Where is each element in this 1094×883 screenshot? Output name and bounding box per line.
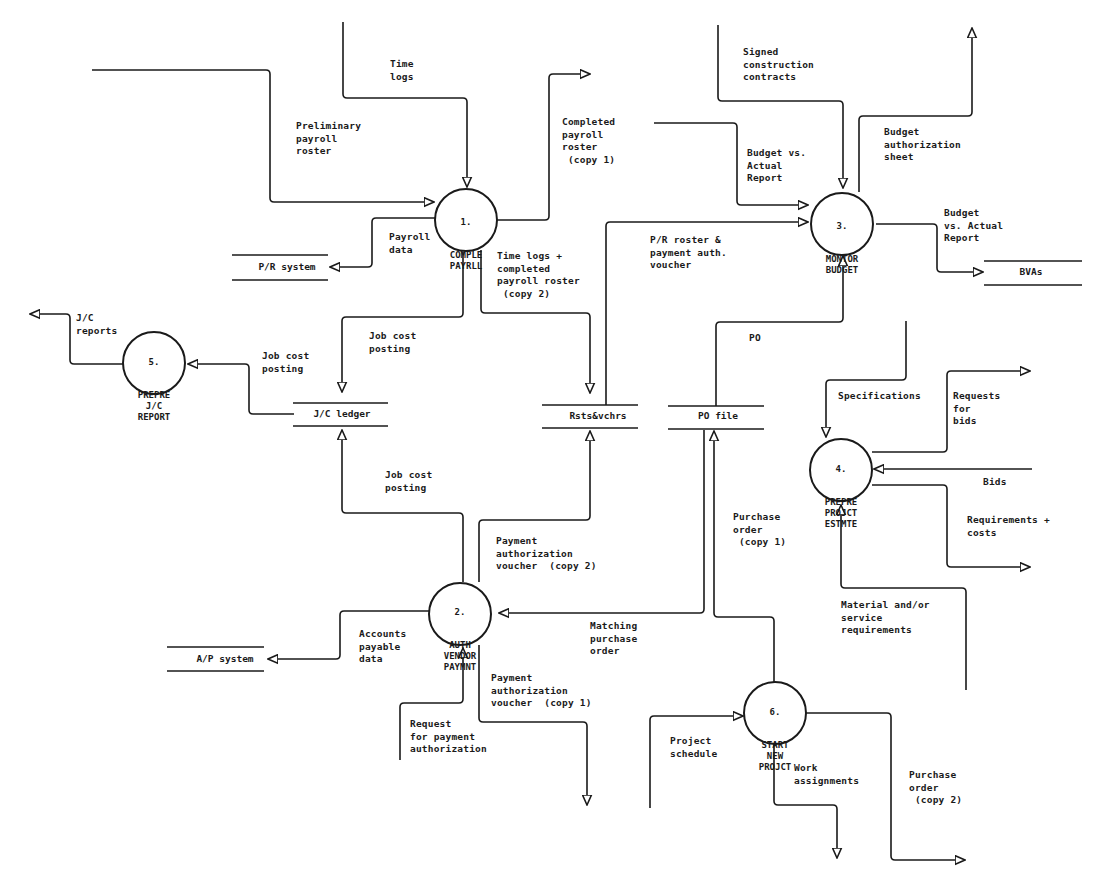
label-requirements-costs: Requirements + costs [967,514,1050,539]
store-jc-ledger-label: J/C ledger [300,408,384,419]
flow-budget-authorization-sheet [859,28,972,192]
label-job-cost-posting-ap: Job cost posting [385,469,432,494]
label-signed-construction-contracts: Signed construction contracts [743,46,814,84]
label-job-cost-posting-payroll: Job cost posting [369,330,416,355]
process-1-name: COMPLE PAYRLL [433,250,499,272]
label-budget-authorization-sheet: Budget authorization sheet [884,126,961,164]
process-2-name: AUTH VENDOR PAYMNT [427,640,493,673]
label-pr-roster-payment-voucher: P/R roster & payment auth. voucher [650,234,727,272]
label-matching-purchase-order: Matching purchase order [590,620,637,658]
process-4-name: PREPRE PROJCT ESTMTE [808,497,874,530]
flow-matching-purchase-order [499,430,704,613]
process-1-number: 1. [433,217,499,228]
store-po-file-label: PO file [680,410,756,421]
label-preliminary-payroll-roster: Preliminary payroll roster [296,120,361,158]
label-po: PO [749,332,761,345]
process-2-number: 2. [427,607,493,618]
label-purchase-order-copy2: Purchase order (copy 2) [909,769,962,807]
process-5-number: 5. [121,357,187,368]
flow-payment-voucher-copy1 [479,645,587,805]
flow-project-schedule [650,716,743,808]
label-jc-reports: J/C reports [76,312,117,337]
process-4-number: 4. [808,464,874,475]
label-accounts-payable-data: Accounts payable data [359,628,406,666]
data-flow-diagram: 1. COMPLE PAYRLL 2. AUTH VENDOR PAYMNT 3… [0,0,1094,883]
label-request-payment-authorization: Request for payment authorization [410,718,487,756]
label-time-logs-roster-copy2: Time logs + completed payroll roster (co… [497,250,580,300]
process-3-number: 3. [809,221,875,232]
flow-requests-for-bids [872,371,1030,452]
label-time-logs: Time logs [390,58,414,83]
process-3-label: 3. MONTOR BUDGET [809,199,875,287]
flow-specifications [826,321,906,437]
label-project-schedule: Project schedule [670,735,717,760]
label-requests-for-bids: Requests for bids [953,390,1000,428]
label-budget-vs-actual-in: Budget vs. Actual Report [747,147,806,185]
store-bvas-label: BVAs [1000,266,1062,277]
label-material-service-requirements: Material and/or service requirements [841,599,930,637]
process-2-label: 2. AUTH VENDOR PAYMNT [427,585,493,684]
flow-time-logs [343,22,467,187]
process-5-name: PREPRE J/C REPORT [121,390,187,423]
flow-preliminary-payroll-roster [92,70,434,202]
label-payroll-data: Payroll data [389,231,430,256]
flow-job-cost-posting-ap [342,430,463,582]
label-work-assignments: Work assignments [794,762,859,787]
label-specifications: Specifications [838,390,921,403]
store-pr-system-label: P/R system [255,261,319,272]
label-job-cost-posting-to-report: Job cost posting [262,350,309,375]
label-bids: Bids [983,476,1007,489]
process-1-label: 1. COMPLE PAYRLL [433,195,499,283]
flow-purchase-order-copy1 [714,431,774,682]
label-payment-voucher-copy2: Payment authorization voucher (copy 2) [496,535,597,573]
store-ap-system-label: A/P system [190,653,260,664]
label-completed-payroll-roster-copy1: Completed payroll roster (copy 1) [562,116,615,166]
store-rsts-vchrs-label: Rsts&vchrs [560,410,636,421]
process-6-number: 6. [742,707,808,718]
label-budget-vs-actual-out: Budget vs. Actual Report [944,207,1003,245]
process-5-label: 5. PREPRE J/C REPORT [121,335,187,434]
label-payment-voucher-copy1: Payment authorization voucher (copy 1) [491,672,592,710]
label-purchase-order-copy1: Purchase order (copy 1) [733,511,786,549]
process-4-label: 4. PREPRE PROJCT ESTMTE [808,442,874,541]
process-3-name: MONTOR BUDGET [809,254,875,276]
